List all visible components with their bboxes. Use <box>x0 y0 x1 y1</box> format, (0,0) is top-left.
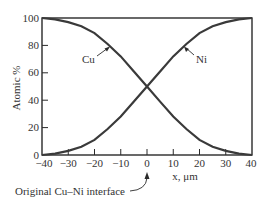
interface-label: Original Cu–Ni interface <box>15 185 125 197</box>
y-tick-labels: 0 20 40 60 80 100 <box>23 12 40 161</box>
y-tick-20: 20 <box>28 121 40 133</box>
ni-arrowhead-icon <box>184 47 189 53</box>
x-ticks <box>68 149 226 155</box>
x-tick-0: 0 <box>144 157 150 169</box>
interface-arrowhead-icon <box>145 172 150 179</box>
y-ticks <box>42 45 48 127</box>
x-tick-10: 10 <box>168 157 180 169</box>
cu-arrowhead-icon <box>105 47 111 52</box>
y-tick-100: 100 <box>23 12 40 24</box>
x-tick-labels: −40 −30 −20 −10 0 10 20 30 40 <box>35 157 257 169</box>
y-tick-40: 40 <box>28 94 40 106</box>
x-axis-label: x, μm <box>172 170 198 182</box>
interface-leader-line <box>130 178 147 191</box>
diffusion-chart: 0 20 40 60 80 100 −40 −30 −20 −10 0 10 2… <box>0 0 267 209</box>
ni-label: Ni <box>196 53 207 65</box>
x-tick-30: 30 <box>220 157 232 169</box>
y-tick-80: 80 <box>28 39 40 51</box>
y-axis-label: Atomic % <box>10 66 22 111</box>
x-tick-neg20: −20 <box>86 157 104 169</box>
cu-label: Cu <box>82 53 95 65</box>
x-tick-40: 40 <box>246 157 258 169</box>
x-tick-20: 20 <box>194 157 206 169</box>
ni-curve <box>42 18 252 155</box>
x-tick-neg10: −10 <box>112 157 130 169</box>
x-tick-neg30: −30 <box>60 157 78 169</box>
y-tick-60: 60 <box>28 66 40 78</box>
x-tick-neg40: −40 <box>35 157 53 169</box>
